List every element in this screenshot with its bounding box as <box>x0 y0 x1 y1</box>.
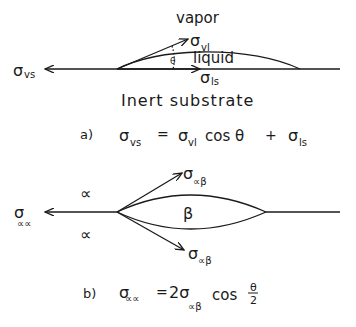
svg-text:ls: ls <box>299 137 307 148</box>
svg-text:θ: θ <box>250 281 257 294</box>
svg-text:vl: vl <box>188 137 197 148</box>
svg-text:2: 2 <box>250 294 257 307</box>
substrate-label: Inert substrate <box>121 91 254 110</box>
svg-text:b): b) <box>83 286 96 301</box>
svg-text:cos: cos <box>212 286 237 304</box>
svg-text:vs: vs <box>24 69 35 80</box>
sigma-vl-arrow <box>117 39 188 69</box>
svg-text:2σ: 2σ <box>169 283 189 302</box>
svg-text:σ: σ <box>183 164 193 183</box>
sigma-vs-label: σ vs <box>13 61 35 80</box>
alpha-lower-label: ∝ <box>80 225 91 244</box>
svg-text:a): a) <box>80 127 93 142</box>
diagram-b: ∝ ∝ β σ ∝β σ ∝β σ ∝∝ b) σ ∝∝ = 2σ ∝β cos… <box>14 164 340 312</box>
svg-text:+: + <box>265 127 277 143</box>
svg-text:∝∝: ∝∝ <box>125 293 139 304</box>
theta-label: θ <box>170 56 176 66</box>
liquid-label: liquid <box>193 49 234 67</box>
svg-text:=: = <box>157 126 169 142</box>
svg-text:σ: σ <box>13 61 23 80</box>
svg-text:vs: vs <box>130 137 141 148</box>
svg-text:σ: σ <box>178 126 188 145</box>
svg-text:cos θ: cos θ <box>205 127 244 145</box>
equation-a: a) σ vs = σ vl cos θ + σ ls <box>80 126 307 148</box>
svg-text:σ: σ <box>190 31 200 50</box>
sigma-ab-upper-arrow <box>117 173 182 212</box>
sigma-ls-label: σ ls <box>200 68 219 87</box>
beta-label: β <box>183 204 193 223</box>
alpha-upper-label: ∝ <box>80 184 91 203</box>
svg-text:σ: σ <box>119 126 129 145</box>
sigma-ab-lower-label: σ ∝β <box>188 244 212 266</box>
svg-text:σ: σ <box>200 68 210 87</box>
sigma-ab-upper-label: σ ∝β <box>183 164 207 187</box>
svg-text:∝∝: ∝∝ <box>17 218 31 229</box>
svg-text:∝β: ∝β <box>188 301 202 312</box>
svg-text:vl: vl <box>201 42 210 53</box>
wetting-diagram: vapor θ liquid σ vl σ ls σ vs Inert subs… <box>0 0 356 327</box>
svg-text:∝β: ∝β <box>193 176 207 187</box>
sigma-aa-label: σ ∝∝ <box>14 203 31 229</box>
svg-text:∝β: ∝β <box>198 255 212 266</box>
vapor-label: vapor <box>176 9 220 27</box>
svg-text:σ: σ <box>188 244 198 263</box>
equation-b: b) σ ∝∝ = 2σ ∝β cos θ 2 <box>83 281 258 312</box>
svg-text:ls: ls <box>211 76 219 87</box>
svg-text:=: = <box>156 284 168 300</box>
sigma-vl-label: σ vl <box>190 31 210 53</box>
sigma-ab-lower-arrow <box>117 212 184 250</box>
svg-text:σ: σ <box>288 126 298 145</box>
diagram-a: vapor θ liquid σ vl σ ls σ vs Inert subs… <box>13 9 340 148</box>
